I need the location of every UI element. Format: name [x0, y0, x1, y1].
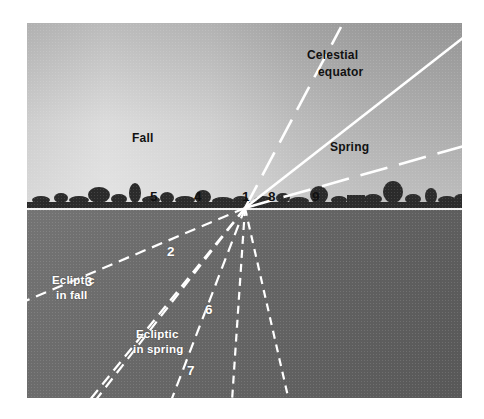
marker-5: 5	[150, 189, 158, 204]
label-spring: Spring	[330, 141, 369, 154]
label-fall: Fall	[132, 132, 153, 145]
label-ecliptic-in-spring-line1: Ecliptic	[136, 328, 179, 341]
marker-8: 8	[268, 189, 276, 204]
astronomy-figure: Fall Spring Celestial equator Ecliptic i…	[0, 0, 484, 419]
marker-4: 4	[194, 189, 202, 204]
label-ecliptic-in-spring-line2: in spring	[133, 343, 183, 356]
celestial-lines	[27, 23, 462, 398]
marker-2: 2	[167, 244, 175, 259]
marker-3: 3	[85, 274, 93, 289]
label-celestial-equator-line2: equator	[318, 66, 363, 79]
line-marker-6-dashed	[232, 208, 245, 398]
label-celestial-equator-line1: Celestial	[307, 49, 358, 62]
marker-7: 7	[187, 363, 195, 378]
line-ecliptic-fall-lower-dashed	[27, 208, 245, 302]
line-marker-8-dashed	[245, 208, 289, 398]
line-marker-9-dashed	[89, 208, 245, 398]
label-ecliptic-in-fall-line2: in fall	[56, 289, 87, 302]
line-celestial-equator-solid	[245, 37, 462, 208]
photo-plate: Fall Spring Celestial equator Ecliptic i…	[27, 23, 462, 398]
marker-6: 6	[205, 302, 213, 317]
marker-1: 1	[242, 189, 250, 204]
line-celestial-equator-right-dashed	[245, 146, 462, 208]
marker-9: 9	[312, 189, 320, 204]
